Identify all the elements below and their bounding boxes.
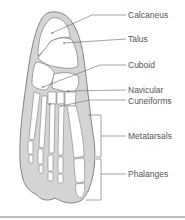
label-metatarsals: Metatarsals xyxy=(128,131,172,141)
metatarsal-3 xyxy=(49,104,55,153)
cuneiform-lateral xyxy=(48,92,56,104)
foot-bones-diagram xyxy=(0,0,185,220)
navicular-bone xyxy=(52,73,79,92)
label-cuneiforms: Cuneiforms xyxy=(128,96,171,106)
bottom-divider xyxy=(0,216,185,218)
label-talus: Talus xyxy=(128,34,148,44)
label-navicular: Navicular xyxy=(128,85,163,95)
metatarsal-2 xyxy=(58,104,64,155)
label-cuboid: Cuboid xyxy=(128,60,155,70)
cuneiform-intermediate xyxy=(57,92,64,104)
label-calcaneus: Calcaneus xyxy=(128,10,168,20)
label-phalanges: Phalanges xyxy=(128,169,168,179)
